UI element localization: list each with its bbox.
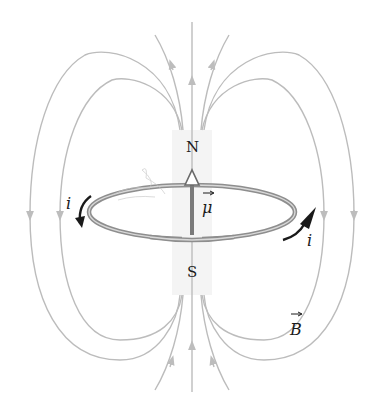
vector-arrow-icon: [202, 190, 216, 196]
field-label: B: [290, 322, 302, 338]
dipole-moment-label: μ: [202, 200, 212, 216]
north-pole-label: N: [186, 140, 199, 155]
current-label-left: i: [66, 196, 71, 212]
field-line-top-right-inner: [201, 35, 229, 130]
diagram-canvas: [0, 0, 383, 420]
magnetic-dipole-diagram: N S μ i i B: [0, 0, 383, 420]
south-pole-label: S: [187, 265, 197, 280]
vector-arrow-icon: [290, 311, 304, 317]
field-line-top-left-inner: [155, 35, 183, 130]
current-label-right: i: [307, 233, 312, 249]
field-line-right-inner: [202, 79, 324, 340]
field-line-left-inner: [60, 79, 182, 340]
field-line-left-outer: [30, 52, 180, 360]
current-arrowhead-left: [75, 216, 85, 228]
field-line-right-outer: [204, 52, 354, 360]
